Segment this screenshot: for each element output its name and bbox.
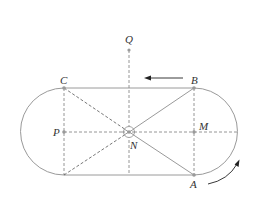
segment-BN — [129, 88, 194, 132]
track-diagram: Q C B P N M A — [0, 0, 256, 200]
label-M: M — [198, 120, 209, 132]
label-Q: Q — [125, 33, 133, 45]
point-C — [62, 86, 66, 90]
label-N: N — [129, 139, 138, 151]
segment-CN — [64, 88, 129, 132]
segment-bottomleft-N — [64, 132, 129, 175]
label-B: B — [191, 74, 198, 86]
point-P — [62, 130, 66, 134]
segment-AN — [129, 132, 194, 175]
labels: Q C B P N M A — [52, 33, 209, 190]
point-M — [192, 130, 196, 134]
label-C: C — [60, 74, 68, 86]
label-P: P — [52, 126, 60, 138]
point-A — [192, 173, 196, 177]
construction-lines — [64, 50, 237, 175]
point-B — [192, 86, 196, 90]
label-A: A — [189, 178, 197, 190]
left-arrow-icon — [144, 76, 183, 81]
point-Q — [127, 48, 130, 51]
